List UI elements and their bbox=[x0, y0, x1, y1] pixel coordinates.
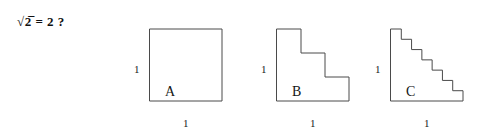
figure-canvas: √2̅ = 2 ? A11B11C11 bbox=[0, 0, 480, 138]
dimension-label-bottom-c: 1 bbox=[424, 118, 430, 129]
figure-label-c: C bbox=[406, 85, 415, 99]
figure-c-outline bbox=[0, 0, 480, 138]
dimension-label-left-c: 1 bbox=[375, 64, 381, 75]
staircase-polygon-c bbox=[391, 29, 463, 101]
